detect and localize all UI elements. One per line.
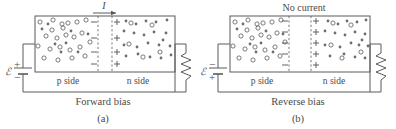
- depletion-ions-a: [91, 19, 120, 67]
- no-current-label-b: No current: [282, 2, 325, 13]
- battery-top-terminal-b: −: [209, 58, 215, 70]
- p-side-carriers-b: [231, 18, 287, 62]
- circuit-wires-b: [218, 44, 381, 92]
- n-side-carriers-a: [123, 19, 173, 60]
- battery-bottom-terminal-b: +: [209, 71, 215, 83]
- p-side-carriers-a: [36, 18, 92, 62]
- arrow-head-icon: [111, 11, 116, 15]
- depletion-ions-b: [282, 18, 319, 68]
- caption-b: Reverse bias: [271, 96, 324, 107]
- pn-junction-figure: I: [0, 0, 396, 129]
- n-side-carriers-b: [324, 19, 370, 61]
- n-side-label-a: n side: [127, 76, 149, 86]
- caption-a: Forward bias: [75, 96, 130, 107]
- emf-symbol-b: ℰ: [200, 66, 207, 77]
- n-side-label-b: n side: [323, 76, 345, 86]
- depletion-zone-a: [98, 16, 112, 72]
- subcaption-b: (b): [292, 113, 305, 125]
- battery-bottom-terminal-a: −: [14, 71, 20, 83]
- current-label-a: I: [101, 0, 106, 11]
- resistor-a: [181, 53, 191, 80]
- figure-canvas: I: [0, 0, 396, 129]
- depletion-zone-b: [289, 16, 311, 72]
- battery-top-terminal-a: +: [14, 58, 20, 70]
- panel-a: I: [5, 0, 191, 125]
- panel-b: No current: [200, 2, 386, 125]
- p-side-label-a: p side: [57, 76, 79, 86]
- emf-symbol-a: ℰ: [5, 66, 12, 77]
- resistor-b: [376, 53, 386, 80]
- subcaption-a: (a): [97, 113, 109, 125]
- current-arrow-a: [93, 11, 116, 15]
- p-side-label-b: p side: [251, 76, 273, 86]
